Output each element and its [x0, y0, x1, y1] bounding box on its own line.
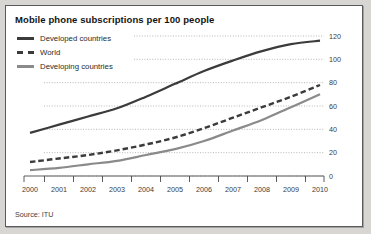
y-axis-tick-label: 40: [329, 125, 337, 134]
legend-swatch-icon: [17, 51, 34, 54]
legend-item-developing-countries: Developing countries: [17, 59, 113, 73]
chart-legend: Developed countries World Developing cou…: [17, 31, 113, 73]
x-axis-tick-label: 2003: [109, 185, 125, 194]
y-axis-tick-labels: 020406080100120: [329, 32, 341, 181]
x-axis-tick-label: 2000: [22, 185, 38, 194]
legend-item-developed-countries: Developed countries: [17, 31, 113, 45]
legend-label: Developing countries: [40, 62, 113, 71]
y-axis-tick-label: 60: [329, 102, 337, 111]
y-axis-tick-label: 80: [329, 78, 337, 87]
x-axis-tick-label: 2001: [51, 185, 67, 194]
legend-item-world: World: [17, 45, 113, 59]
source-note: Source: ITU: [15, 210, 53, 219]
x-axis-tick-label: 2004: [138, 185, 154, 194]
y-axis-tick-label: 0: [329, 172, 333, 181]
legend-swatch-icon: [17, 65, 34, 68]
chart-panel: Mobile phone subscriptions per 100 peopl…: [5, 5, 363, 227]
x-axis-tick-label: 2008: [254, 185, 270, 194]
y-axis-tick-label: 120: [329, 32, 341, 41]
x-axis: [24, 176, 324, 182]
x-axis-tick-label: 2005: [167, 185, 183, 194]
legend-label: Developed countries: [40, 34, 111, 43]
x-axis-tick-label: 2009: [283, 185, 299, 194]
x-axis-tick-label: 2007: [225, 185, 241, 194]
y-axis-tick-label: 100: [329, 55, 341, 64]
x-axis-tick-label: 2010: [312, 185, 328, 194]
legend-label: World: [40, 48, 60, 57]
x-axis-tick-label: 2006: [196, 185, 212, 194]
x-axis-tick-label: 2002: [80, 185, 96, 194]
legend-swatch-icon: [17, 37, 34, 40]
series-line: [30, 85, 320, 162]
x-axis-tick-labels: 2000200120022003200420052006200720082009…: [22, 185, 328, 194]
y-axis-tick-label: 20: [329, 148, 337, 157]
